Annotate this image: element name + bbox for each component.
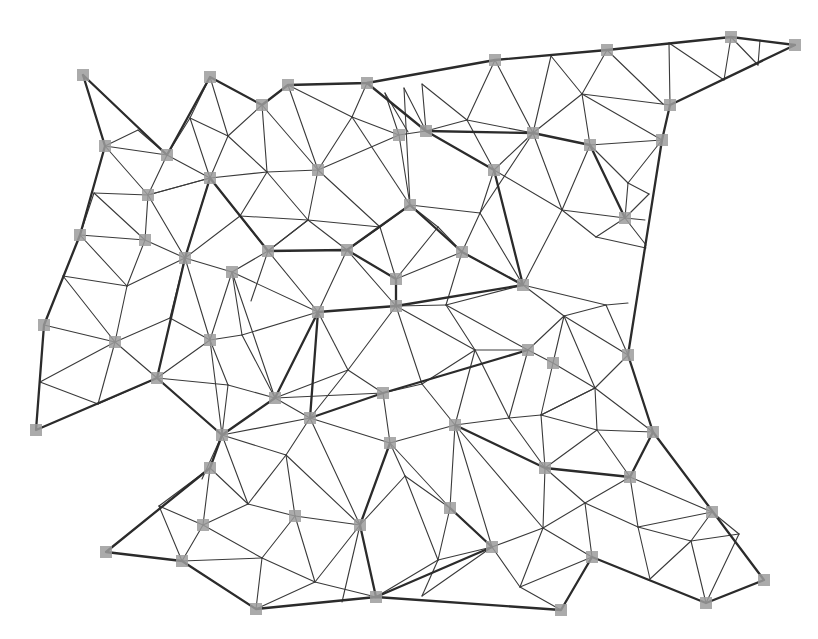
mesh-edge (543, 503, 585, 528)
mesh-edge (607, 50, 663, 104)
vertex-square-marker (161, 149, 173, 161)
vertex-square-marker (584, 139, 596, 151)
mesh-edge (455, 418, 509, 425)
vertex-square-marker (109, 336, 121, 348)
mesh-edge (523, 210, 562, 285)
vertex-square-marker (706, 506, 718, 518)
mesh-edge (582, 50, 607, 94)
interior-edges (40, 37, 760, 610)
mesh-edge (267, 172, 308, 220)
constraint-edge (376, 547, 492, 597)
mesh-edge (562, 145, 590, 210)
mesh-edge (509, 415, 541, 418)
vertex-square-marker (250, 603, 262, 615)
constraint-edge (426, 131, 533, 133)
vertex-square-marker (289, 510, 301, 522)
mesh-edge (228, 385, 275, 398)
mesh-edge (669, 43, 724, 80)
mesh-edge (210, 136, 228, 178)
mesh-edge (582, 94, 590, 145)
mesh-edge (310, 418, 360, 525)
mesh-edge (691, 541, 706, 603)
mesh-edge (203, 468, 210, 525)
mesh-edge (562, 210, 625, 218)
vertex-square-marker (555, 604, 567, 616)
mesh-edge (145, 195, 148, 240)
mesh-edge (80, 235, 145, 240)
mesh-edge (405, 476, 438, 560)
mesh-edge (318, 312, 348, 370)
mesh-edge (94, 193, 145, 240)
mesh-edge (232, 272, 242, 335)
constraint-edge (533, 133, 590, 145)
vertex-square-marker (204, 462, 216, 474)
vertex-square-marker (384, 437, 396, 449)
vertex-markers (30, 31, 801, 616)
constraint-edge (455, 425, 545, 468)
vertex-square-marker (99, 140, 111, 152)
vertex-square-marker (312, 306, 324, 318)
mesh-edge (438, 508, 450, 560)
mesh-edge (318, 170, 380, 227)
mesh-edge (480, 133, 533, 213)
mesh-edge (267, 170, 318, 172)
mesh-edge (541, 415, 597, 430)
mesh-edge (286, 455, 295, 516)
vertex-square-marker (204, 71, 216, 83)
mesh-edge (127, 258, 185, 286)
vertex-square-marker (420, 125, 432, 137)
mesh-edge (262, 516, 295, 558)
mesh-edge (582, 94, 670, 105)
vertex-square-marker (449, 419, 461, 431)
mesh-edge (94, 193, 148, 195)
vertex-square-marker (216, 429, 228, 441)
vertex-square-marker (341, 244, 353, 256)
mesh-edge (360, 476, 405, 525)
mesh-edge (446, 305, 528, 350)
constraint-edge (590, 145, 625, 218)
mesh-edge (492, 528, 543, 547)
vertex-square-marker (700, 597, 712, 609)
mesh-edge (543, 528, 592, 557)
mesh-edge (606, 305, 628, 355)
vertex-square-marker (456, 246, 468, 258)
mesh-edge (520, 557, 592, 587)
mesh-edge (495, 60, 533, 133)
mesh-edge (80, 235, 127, 286)
vertex-square-marker (204, 172, 216, 184)
mesh-edge (467, 60, 495, 120)
mesh-edge (262, 558, 315, 582)
mesh-edge (240, 216, 308, 220)
mesh-edge (115, 318, 170, 342)
constraint-edge (318, 306, 396, 312)
mesh-edge (318, 135, 399, 170)
mesh-edge (426, 120, 467, 131)
mesh-edge (446, 305, 475, 350)
constraint-edge (630, 432, 653, 477)
mesh-edge (596, 237, 646, 248)
vertex-square-marker (77, 69, 89, 81)
constraint-edge (157, 378, 222, 435)
mesh-edge (157, 378, 228, 385)
mesh-edge (545, 430, 597, 468)
mesh-edge (347, 250, 396, 306)
mesh-edge (564, 305, 606, 316)
mesh-edge (533, 133, 562, 210)
mesh-edge (630, 477, 638, 527)
mesh-edge (455, 425, 543, 528)
mesh-edge (251, 251, 268, 301)
mesh-edge (190, 118, 228, 136)
mesh-edge (582, 94, 662, 140)
vertex-square-marker (647, 426, 659, 438)
vertex-square-marker (622, 349, 634, 361)
mesh-edge (585, 503, 638, 527)
mesh-edge (318, 117, 352, 170)
vertex-square-marker (656, 134, 668, 146)
mesh-edge (396, 252, 462, 279)
vertex-square-marker (517, 279, 529, 291)
vertex-square-marker (262, 245, 274, 257)
mesh-edge (242, 312, 318, 335)
mesh-edge (553, 363, 595, 388)
mesh-edge (232, 272, 318, 312)
mesh-edge (348, 306, 396, 370)
